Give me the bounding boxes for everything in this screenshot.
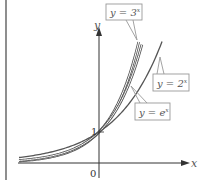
y-axis-label: y bbox=[93, 19, 101, 32]
curves-group bbox=[19, 42, 162, 161]
callout-pointer-y-3-x bbox=[126, 20, 137, 40]
x-axis-arrow-icon bbox=[181, 160, 190, 166]
callout-pointer-y-2-x bbox=[157, 57, 164, 74]
curve-label-y-3-x: y = 3x bbox=[109, 6, 141, 18]
curve-y-e-x-inner bbox=[19, 45, 142, 161]
x-axis-label: x bbox=[191, 157, 198, 170]
y-tick-label-1: 1 bbox=[91, 126, 97, 137]
curve-y-e-x-outer bbox=[19, 45, 142, 161]
exponential-chart: x y 0 1 y = 3xy = 2xy = ex bbox=[0, 0, 206, 185]
curve-label-y-2-x: y = 2x bbox=[156, 77, 188, 89]
curve-label-y-e-x: y = ex bbox=[138, 106, 169, 118]
origin-label: 0 bbox=[90, 168, 96, 179]
